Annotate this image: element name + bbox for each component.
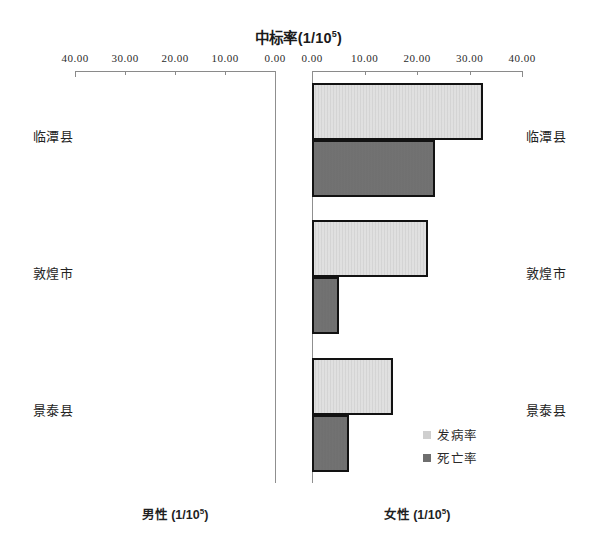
category-label-临潭县: 临潭县 <box>33 125 74 144</box>
legend-swatch-icon <box>423 454 431 462</box>
legend-swatch-icon <box>423 431 431 439</box>
axis-tick-label: 20.00 <box>161 52 188 64</box>
chart-title-main: 中标率(1/10 <box>255 30 332 46</box>
chart-title: 中标率(1/105) <box>0 26 597 47</box>
panel-caption-male: 男性 (1/105) <box>142 504 209 523</box>
category-label-景泰县: 景泰县 <box>33 400 74 419</box>
axis-tick-label: 40.00 <box>508 52 535 64</box>
panel-caption-male-text: 男性 (1/10 <box>142 508 200 522</box>
panel-caption-male-tail: ) <box>204 508 208 522</box>
axis-spine-male <box>275 71 276 483</box>
panel-caption-female-text: 女性 (1/10 <box>384 508 442 522</box>
chart-title-tail: ) <box>337 30 342 46</box>
category-label-敦煌市: 敦煌市 <box>33 263 74 282</box>
bar-女性-发病率-临潭县 <box>312 83 483 140</box>
axis-tick-label: 20.00 <box>403 52 430 64</box>
axis-tick-label: 40.00 <box>61 52 88 64</box>
bar-女性-死亡率-景泰县 <box>312 415 349 472</box>
bar-女性-发病率-景泰县 <box>312 358 393 415</box>
axis-tick-label: 30.00 <box>456 52 483 64</box>
legend-label: 发病率 <box>437 425 478 444</box>
legend-item-死亡率: 死亡率 <box>423 446 478 469</box>
bar-女性-死亡率-临潭县 <box>312 140 435 197</box>
panel-caption-female: 女性 (1/105) <box>384 504 451 523</box>
axis-tick-label: 10.00 <box>211 52 238 64</box>
chart-legend: 发病率死亡率 <box>423 423 478 469</box>
category-label-临潭县: 临潭县 <box>526 125 567 144</box>
category-label-敦煌市: 敦煌市 <box>526 263 567 282</box>
axis-tick-label: 0.00 <box>264 52 285 64</box>
legend-label: 死亡率 <box>437 448 478 467</box>
legend-item-发病率: 发病率 <box>423 423 478 446</box>
category-label-景泰县: 景泰县 <box>526 400 567 419</box>
panel-caption-female-tail: ) <box>446 508 450 522</box>
plot-area-female <box>312 72 522 484</box>
axis-tick-label: 10.00 <box>351 52 378 64</box>
bar-女性-死亡率-敦煌市 <box>312 277 339 334</box>
axis-tick-label: 0.00 <box>301 52 322 64</box>
bar-女性-发病率-敦煌市 <box>312 220 428 277</box>
plot-area-male <box>75 72 275 484</box>
axis-tick-mark <box>522 71 523 77</box>
axis-tick-label: 30.00 <box>111 52 138 64</box>
